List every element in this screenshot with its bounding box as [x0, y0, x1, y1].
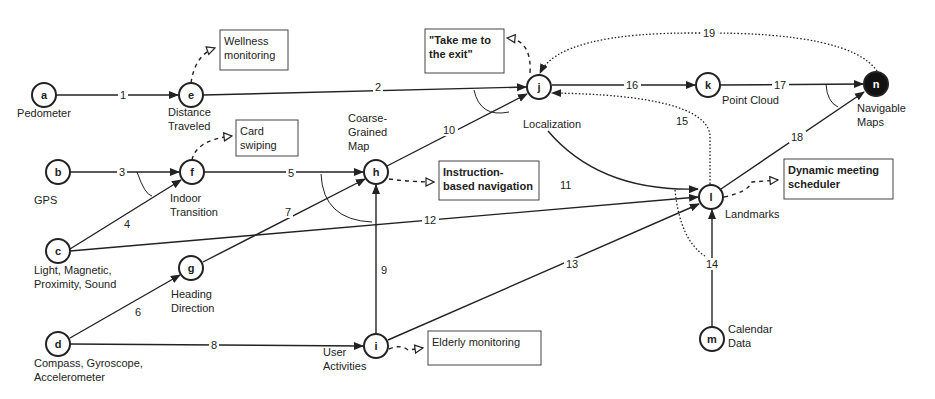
edge-number: 15	[676, 115, 688, 127]
node-label: Compass, Gyroscope,	[34, 357, 143, 369]
edge-number: 14	[706, 258, 718, 270]
edge-number: 1	[120, 89, 126, 101]
edge-number: 2	[375, 81, 381, 93]
application-box: Wellnessmonitoring	[191, 30, 288, 83]
application-box: Dynamic meetingscheduler	[724, 159, 893, 199]
application-link	[724, 180, 778, 197]
node-label: Transition	[170, 206, 218, 218]
edge-number: 10	[443, 124, 455, 136]
node-i: iUserActivities	[323, 334, 388, 372]
edge-number: 9	[381, 264, 387, 276]
edge-number: 6	[135, 306, 141, 318]
edge-1: 1	[56, 89, 178, 101]
node-label: Grained	[348, 126, 387, 138]
node-k: kPoint Cloud	[696, 73, 779, 106]
node-label: Navigable	[857, 102, 906, 114]
node-label: Distance	[168, 106, 211, 118]
and-arc-f	[137, 172, 152, 196]
node-label: Direction	[171, 302, 214, 314]
edge-number: 12	[424, 214, 436, 226]
edge-11: 11	[548, 131, 698, 191]
node-label: User	[323, 346, 347, 358]
node-label: Coarse-	[348, 112, 387, 124]
edge-7: 7	[203, 179, 365, 262]
node-label: Light, Magnetic,	[34, 264, 112, 276]
node-e: eDistanceTraveled	[168, 83, 211, 132]
node-h: hCoarse-GrainedMap	[348, 112, 388, 184]
edge-10: 10	[387, 94, 527, 166]
application-label: the exit"	[429, 48, 473, 60]
edge-14: 14	[704, 210, 721, 327]
application-label: Elderly monitoring	[432, 336, 520, 348]
application-box: "Take me tothe exit"	[425, 29, 530, 73]
application-label: "Take me to	[429, 34, 491, 46]
node-label: Indoor	[170, 192, 202, 204]
node-l: lLandmarks	[699, 185, 780, 220]
node-id: e	[188, 89, 194, 101]
edge-number: 3	[119, 166, 125, 178]
node-m: mCalendarData	[700, 323, 773, 351]
sensor-fusion-diagram: 12345678910111213141516171819 Wellnessmo…	[0, 0, 935, 399]
node-label: Point Cloud	[722, 94, 779, 106]
edge-9: 9	[376, 185, 389, 334]
node-id: f	[190, 166, 194, 178]
application-box: Elderly monitoring	[389, 331, 541, 365]
application-link	[192, 136, 232, 160]
application-label: Instruction-	[443, 166, 504, 178]
node-label: Data	[728, 337, 752, 349]
node-label: Map	[348, 140, 369, 152]
node-id: h	[373, 166, 380, 178]
edge-16: 16	[552, 79, 695, 91]
edge-number: 19	[703, 27, 715, 39]
node-id: a	[41, 89, 48, 101]
node-id: g	[188, 262, 195, 274]
edge-5: 5	[204, 167, 363, 179]
edge-number: 5	[288, 167, 294, 179]
application-label: swiping	[240, 139, 277, 151]
edge-15: 15	[552, 93, 710, 184]
node-label: Activities	[323, 360, 367, 372]
edge-12: 12	[70, 197, 698, 251]
node-id: c	[55, 245, 61, 257]
application-label: Dynamic meeting	[788, 164, 879, 176]
node-f: fIndoorTransition	[170, 160, 218, 218]
node-d: dCompass, Gyroscope,Accelerometer	[34, 332, 143, 383]
edge-19: 19	[540, 27, 877, 73]
and-arc-e-j	[474, 90, 509, 113]
node-label: Landmarks	[725, 208, 780, 220]
node-id: m	[707, 333, 717, 345]
node-label: Pedometer	[17, 107, 71, 119]
application-link	[507, 38, 530, 73]
node-b: bGPS	[34, 160, 70, 206]
node-label: Accelerometer	[34, 371, 105, 383]
node-id: n	[873, 78, 880, 90]
node-label: Localization	[523, 118, 581, 130]
and-arc-n	[826, 84, 838, 107]
node-id: i	[374, 340, 377, 352]
node-a: aPedometer	[17, 83, 71, 119]
node-j: jLocalization	[523, 75, 581, 130]
application-link	[389, 347, 423, 350]
node-c: cLight, Magnetic,Proximity, Sound	[34, 239, 116, 290]
node-label: GPS	[34, 194, 57, 206]
node-id: j	[536, 81, 540, 93]
application-link	[389, 179, 434, 182]
node-id: b	[55, 166, 62, 178]
node-id: k	[705, 79, 712, 91]
application-label: monitoring	[224, 49, 275, 61]
node-g: gHeadingDirection	[171, 256, 214, 314]
node-id: d	[55, 338, 62, 350]
node-label: Calendar	[728, 323, 773, 335]
node-label: Traveled	[168, 120, 210, 132]
node-label: Heading	[171, 288, 212, 300]
node-label: Maps	[857, 116, 884, 128]
edge-17: 17	[720, 79, 863, 91]
edge-number: 4	[124, 218, 130, 230]
application-label: based navigation	[443, 180, 533, 192]
edge-number: 13	[566, 258, 578, 270]
edge-number: 16	[626, 79, 638, 91]
application-box: Instruction-based navigation	[389, 161, 539, 200]
edge-number: 18	[791, 131, 803, 143]
application-label: scheduler	[788, 178, 841, 190]
edge-number: 7	[285, 206, 291, 218]
